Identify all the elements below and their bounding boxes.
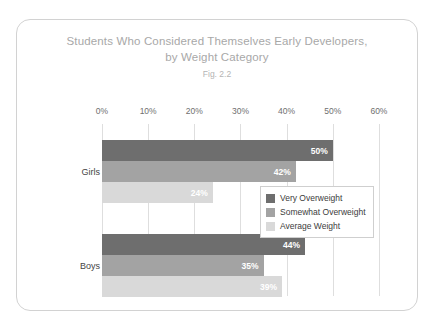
bar[interactable]: 39% [102,276,282,297]
x-axis-tick-label: 30% [232,106,249,116]
x-axis-tick-label: 60% [370,106,387,116]
bar-row: 50% [102,140,402,161]
bar-row: 35% [102,255,402,276]
bar-group: 44%35%39% [102,234,402,297]
bar-value-label: 35% [242,261,259,271]
legend-label: Very Overweight [280,193,342,203]
bar-value-label: 24% [191,188,208,198]
x-axis-tick-label: 0% [96,106,108,116]
x-axis-tick-label: 40% [278,106,295,116]
legend-item[interactable]: Somewhat Overweight [266,205,366,219]
chart-figure-number: Fig. 2.2 [17,68,417,81]
bar-value-label: 39% [260,282,277,292]
chart-title-line-1: Students Who Considered Themselves Early… [17,33,417,49]
chart-header: Students Who Considered Themselves Early… [17,33,417,81]
legend-swatch [266,222,275,231]
category-label: Girls [64,167,100,177]
bar[interactable]: 35% [102,255,264,276]
chart-card: Students Who Considered Themselves Early… [16,19,418,311]
bar[interactable]: 50% [102,140,333,161]
legend-swatch [266,194,275,203]
legend-item[interactable]: Average Weight [266,219,366,233]
chart-legend: Very OverweightSomewhat OverweightAverag… [260,186,374,238]
bar[interactable]: 24% [102,182,213,203]
x-axis-tick-labels: 0%10%20%30%40%50%60% [102,106,402,122]
bar[interactable]: 42% [102,161,296,182]
bar-row: 39% [102,276,402,297]
legend-swatch [266,208,275,217]
legend-label: Average Weight [280,221,340,231]
bar-value-label: 44% [283,240,300,250]
x-axis-tick-label: 20% [186,106,203,116]
x-axis-tick-label: 50% [324,106,341,116]
legend-label: Somewhat Overweight [280,207,366,217]
legend-item[interactable]: Very Overweight [266,191,366,205]
chart-title-line-2: by Weight Category [17,49,417,65]
bar-value-label: 50% [311,146,328,156]
bar-value-label: 42% [274,167,291,177]
x-axis-tick-label: 10% [140,106,157,116]
category-label: Boys [64,261,100,271]
bar-row: 42% [102,161,402,182]
